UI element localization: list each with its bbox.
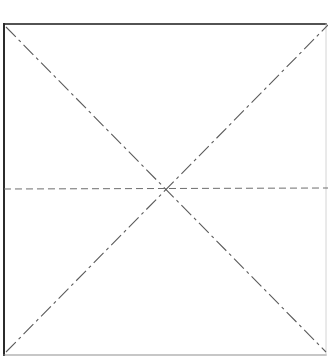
figure-container: Rectangular frame with crossed dash-dot …: [0, 0, 328, 361]
figure-canvas: [0, 0, 328, 361]
canvas-background: [0, 0, 328, 361]
